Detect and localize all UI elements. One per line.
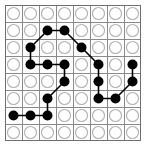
empty-cell-circle[interactable] [8, 76, 20, 88]
filled-node-dot[interactable] [26, 60, 36, 70]
filled-node-dot[interactable] [111, 94, 121, 104]
empty-cell-circle[interactable] [8, 127, 20, 139]
empty-cell-circle[interactable] [127, 93, 139, 105]
puzzle-root [0, 0, 145, 145]
filled-node-dot[interactable] [94, 60, 104, 70]
empty-cell-circle[interactable] [59, 42, 71, 54]
empty-cell-circle[interactable] [76, 127, 88, 139]
empty-cell-circle[interactable] [59, 110, 71, 122]
filled-node-dot[interactable] [128, 77, 138, 87]
empty-cell-circle[interactable] [93, 110, 105, 122]
empty-cell-circle[interactable] [127, 25, 139, 37]
filled-node-dot[interactable] [43, 26, 53, 36]
empty-cell-circle[interactable] [42, 127, 54, 139]
empty-cell-circle[interactable] [127, 127, 139, 139]
filled-node-dot[interactable] [43, 94, 53, 104]
empty-cell-circle[interactable] [59, 127, 71, 139]
empty-cell-circle[interactable] [25, 25, 37, 37]
filled-node-dot[interactable] [9, 111, 19, 121]
filled-node-dot[interactable] [26, 111, 36, 121]
empty-cell-circle[interactable] [93, 8, 105, 20]
empty-cell-circle[interactable] [76, 8, 88, 20]
empty-cell-circle[interactable] [76, 110, 88, 122]
empty-cell-circle[interactable] [25, 127, 37, 139]
empty-cell-circle[interactable] [42, 8, 54, 20]
empty-cell-circle[interactable] [110, 127, 122, 139]
filled-node-dot[interactable] [128, 60, 138, 70]
empty-cell-circle[interactable] [59, 93, 71, 105]
empty-cell-circle[interactable] [76, 76, 88, 88]
filled-node-dot[interactable] [60, 26, 70, 36]
filled-node-dot[interactable] [60, 60, 70, 70]
filled-node-dot[interactable] [60, 77, 70, 87]
empty-cell-circle[interactable] [110, 59, 122, 71]
filled-node-dot[interactable] [43, 111, 53, 121]
empty-cell-circle[interactable] [42, 76, 54, 88]
empty-cell-circle[interactable] [93, 42, 105, 54]
empty-cell-circle[interactable] [8, 42, 20, 54]
empty-cell-circle[interactable] [76, 93, 88, 105]
empty-cell-circle[interactable] [93, 25, 105, 37]
empty-cell-circle[interactable] [25, 76, 37, 88]
filled-node-dot[interactable] [94, 94, 104, 104]
empty-cell-circle[interactable] [42, 42, 54, 54]
empty-cell-circle[interactable] [59, 8, 71, 20]
empty-cell-circle[interactable] [76, 25, 88, 37]
empty-cell-circle[interactable] [127, 8, 139, 20]
empty-cell-circle[interactable] [25, 8, 37, 20]
filled-node-dot[interactable] [26, 43, 36, 53]
empty-cell-circle[interactable] [25, 93, 37, 105]
empty-cell-circle[interactable] [8, 8, 20, 20]
empty-cell-circle[interactable] [93, 127, 105, 139]
empty-cell-circle[interactable] [110, 25, 122, 37]
filled-node-dot[interactable] [43, 60, 53, 70]
grid-lines-layer [5, 5, 141, 141]
filled-node-dot[interactable] [77, 43, 87, 53]
empty-cell-circle[interactable] [110, 110, 122, 122]
filled-node-dot[interactable] [94, 77, 104, 87]
grid-svg [5, 5, 141, 141]
empty-cell-circle[interactable] [8, 59, 20, 71]
empty-cell-circle[interactable] [110, 76, 122, 88]
grid-board[interactable] [5, 5, 141, 141]
empty-cell-circle[interactable] [110, 42, 122, 54]
empty-cell-circle[interactable] [76, 59, 88, 71]
empty-cell-circle[interactable] [8, 93, 20, 105]
empty-cell-circle[interactable] [127, 42, 139, 54]
empty-cell-circle[interactable] [127, 110, 139, 122]
empty-cell-circle[interactable] [8, 25, 20, 37]
empty-cell-circle[interactable] [110, 8, 122, 20]
